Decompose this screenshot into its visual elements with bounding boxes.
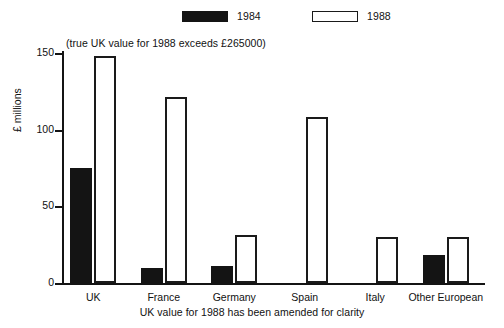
y-tick-50 — [55, 206, 62, 208]
legend-label-1988: 1988 — [367, 10, 391, 22]
bar-germany-1988 — [235, 235, 257, 283]
legend-swatch-1984 — [182, 11, 228, 22]
bar-italy-1988 — [376, 237, 398, 283]
chart-annotation: (true UK value for 1988 exceeds £265000) — [66, 37, 266, 49]
bar-chart: 1984 1988 (true UK value for 1988 exceed… — [0, 0, 504, 328]
bar-germany-1984 — [211, 266, 233, 283]
x-label-italy: Italy — [366, 291, 385, 303]
bar-other-european-1984 — [423, 255, 445, 283]
y-axis-line — [62, 51, 64, 285]
legend-item-1988: 1988 — [312, 10, 391, 22]
legend-swatch-1988 — [312, 11, 358, 22]
x-axis-line — [61, 283, 485, 285]
x-label-spain: Spain — [291, 291, 318, 303]
bar-spain-1988 — [306, 117, 328, 283]
x-label-uk: UK — [86, 291, 101, 303]
bar-uk-1988 — [94, 56, 116, 283]
chart-caption: UK value for 1988 has been amended for c… — [0, 306, 504, 318]
bar-other-european-1988 — [447, 237, 469, 283]
chart-legend: 1984 1988 — [0, 10, 504, 34]
bar-uk-1984 — [70, 168, 92, 283]
bar-france-1988 — [165, 97, 187, 283]
y-tick-150 — [55, 53, 62, 55]
y-tick-100 — [55, 130, 62, 132]
y-tick-label-50: 50 — [12, 199, 54, 211]
y-tick-label-150: 150 — [12, 46, 54, 58]
plot-area: 050100150 UKFranceGermanySpainItalyOther… — [62, 53, 485, 283]
x-label-france: France — [147, 291, 180, 303]
y-tick-0 — [55, 283, 62, 285]
x-label-germany: Germany — [213, 291, 256, 303]
y-tick-label-0: 0 — [12, 276, 54, 288]
x-label-other-european: Other European — [408, 291, 483, 303]
legend-item-1984: 1984 — [182, 10, 261, 22]
y-tick-label-100: 100 — [12, 123, 54, 135]
bar-france-1984 — [141, 268, 163, 283]
legend-label-1984: 1984 — [237, 10, 261, 22]
